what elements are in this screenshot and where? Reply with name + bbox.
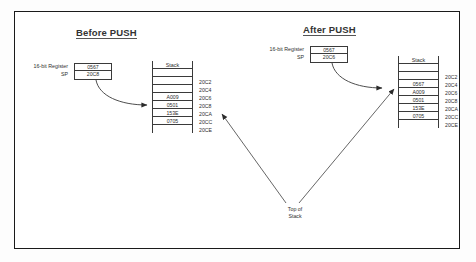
stack-table-before: Stack A009 0501 153E 0705 — [152, 61, 193, 133]
stack-row: 153E — [153, 109, 192, 117]
stack-row: 153E — [399, 104, 438, 112]
address-column-after: 20C2 20C4 20C6 20C8 20CA 20CC 20CE — [445, 73, 471, 129]
stack-row: 0705 — [399, 112, 438, 120]
stack-row: 0705 — [153, 117, 192, 125]
diagram-canvas: Before PUSH 16-bit Register SP 0567 20C8… — [0, 0, 476, 262]
stack-row: 0501 — [399, 96, 438, 104]
address-label: 20C2 — [199, 78, 225, 86]
stack-row: A009 — [153, 93, 192, 101]
stack-row — [153, 85, 192, 93]
address-label: 20CC — [445, 113, 471, 121]
top-of-stack-line2: Stack — [274, 213, 316, 220]
address-column-before: 20C2 20C4 20C6 20C8 20CA 20CC 20CE — [199, 78, 225, 134]
top-of-stack-caption: Top of Stack — [274, 206, 316, 220]
register-box-after: 0567 20C6 — [310, 46, 348, 63]
address-label: 20CA — [199, 110, 225, 118]
address-label: 20C6 — [199, 94, 225, 102]
register-box-before: 0567 20C8 — [74, 63, 112, 80]
stack-header-before: Stack — [153, 61, 192, 69]
stack-row: 0501 — [153, 101, 192, 109]
register-value-top-before: 0567 — [75, 64, 111, 72]
register-label-line2: SP — [14, 71, 68, 79]
register-value-sp-before: 20C8 — [75, 71, 111, 79]
address-label: 20CE — [199, 126, 225, 134]
register-label-line1: 16-bit Register — [14, 63, 68, 71]
stack-header-after: Stack — [399, 56, 438, 64]
address-label: 20C8 — [199, 102, 225, 110]
register-label-before: 16-bit Register SP — [14, 63, 68, 78]
address-label: 20C4 — [199, 86, 225, 94]
register-value-top-after: 0567 — [311, 47, 347, 55]
register-label-line2: SP — [250, 54, 304, 62]
address-label: 20C4 — [445, 81, 471, 89]
panel-title-after-push: After PUSH — [303, 24, 356, 36]
stack-row — [153, 125, 192, 133]
top-of-stack-line1: Top of — [274, 206, 316, 213]
stack-row — [153, 69, 192, 77]
stack-row — [399, 72, 438, 80]
address-label: 20C8 — [445, 97, 471, 105]
stack-row — [399, 64, 438, 72]
register-label-line1: 16-bit Register — [250, 46, 304, 54]
address-label: 20CC — [199, 118, 225, 126]
stack-row — [153, 77, 192, 85]
stack-table-after: Stack 0567 A009 0501 153E 0705 — [398, 56, 439, 128]
address-label: 20CA — [445, 105, 471, 113]
address-label: 20C2 — [445, 73, 471, 81]
stack-row — [399, 120, 438, 128]
register-label-after: 16-bit Register SP — [250, 46, 304, 61]
stack-row: 0567 — [399, 80, 438, 88]
stack-row: A009 — [399, 88, 438, 96]
register-value-sp-after: 20C6 — [311, 54, 347, 62]
panel-title-before-push: Before PUSH — [76, 27, 137, 39]
address-label: 20CE — [445, 121, 471, 129]
address-label: 20C6 — [445, 89, 471, 97]
page-frame — [14, 11, 460, 249]
